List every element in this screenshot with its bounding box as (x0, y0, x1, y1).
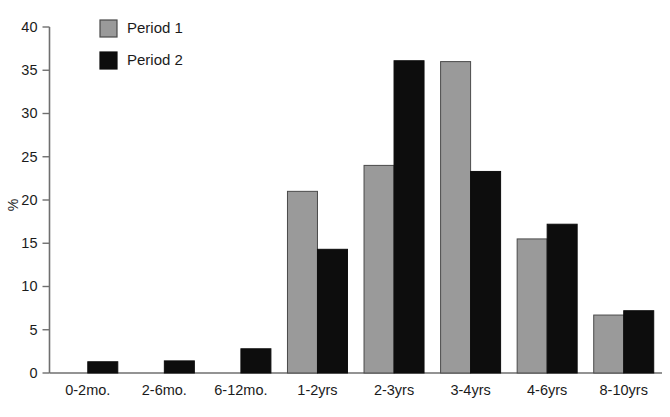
x-tick-label: 6-12mo. (214, 382, 267, 398)
y-tick-label: 35 (21, 62, 37, 78)
legend-label-period-2: Period 2 (127, 51, 183, 68)
y-axis-title: % (5, 199, 21, 211)
bar (88, 362, 118, 373)
bar (287, 191, 317, 373)
x-tick-label: 3-4yrs (450, 382, 490, 398)
bar (164, 361, 194, 373)
x-tick-label: 2-6mo. (142, 382, 187, 398)
y-tick-label: 30 (21, 105, 37, 121)
bar (517, 239, 547, 373)
y-tick-label: 0 (29, 365, 37, 381)
chart-legend: Period 1 Period 2 (100, 19, 183, 69)
y-tick-label: 40 (21, 19, 37, 35)
x-tick-label: 0-2mo. (65, 382, 110, 398)
y-tick-label: 20 (21, 192, 37, 208)
x-tick-label: 2-3yrs (374, 382, 414, 398)
y-tick-label: 5 (29, 322, 37, 338)
y-axis-ticks: 0510152025303540 (21, 19, 49, 381)
bar-chart: 0510152025303540 % 0-2mo.2-6mo.6-12mo.1-… (0, 0, 670, 417)
bar (394, 61, 424, 373)
bar (624, 311, 654, 373)
legend-label-period-1: Period 1 (127, 19, 183, 36)
bar (317, 249, 347, 373)
x-tick-label: 4-6yrs (527, 382, 567, 398)
x-axis-category-labels: 0-2mo.2-6mo.6-12mo.1-2yrs2-3yrs3-4yrs4-6… (65, 382, 648, 398)
y-tick-label: 15 (21, 235, 37, 251)
x-tick-label: 8-10yrs (600, 382, 648, 398)
bar (547, 224, 577, 373)
legend-swatch-period-1 (100, 20, 117, 37)
legend-swatch-period-2 (100, 52, 117, 69)
bar (241, 349, 271, 373)
y-tick-label: 10 (21, 278, 37, 294)
bar (364, 165, 394, 373)
y-tick-label: 25 (21, 149, 37, 165)
bar (441, 62, 471, 373)
x-tick-label: 1-2yrs (297, 382, 337, 398)
chart-canvas: 0510152025303540 % 0-2mo.2-6mo.6-12mo.1-… (0, 0, 670, 417)
bar (471, 171, 501, 373)
bar (594, 315, 624, 373)
